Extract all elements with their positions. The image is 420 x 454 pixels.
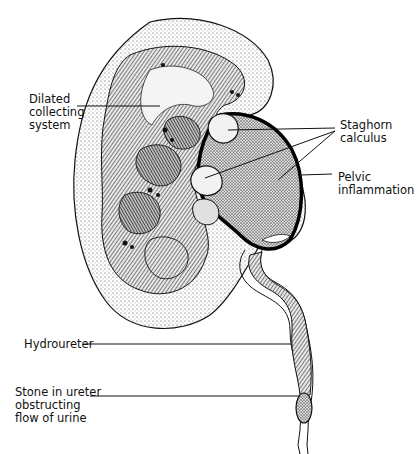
label-staghorn-calculus: Staghorn calculus <box>340 119 392 145</box>
ureteral-stone <box>296 393 312 423</box>
label-hydroureter: Hydroureter <box>24 338 93 351</box>
label-dilated-collecting-system: Dilated collecting system <box>29 93 84 132</box>
label-pelvic-inflammation: Pelvic inflammation <box>338 171 414 197</box>
label-stone-in-ureter: Stone in ureter obstructing flow of urin… <box>15 386 101 425</box>
kidney-diagram: Dilated collecting system Staghorn calcu… <box>0 0 420 454</box>
hydroureter <box>240 250 313 454</box>
